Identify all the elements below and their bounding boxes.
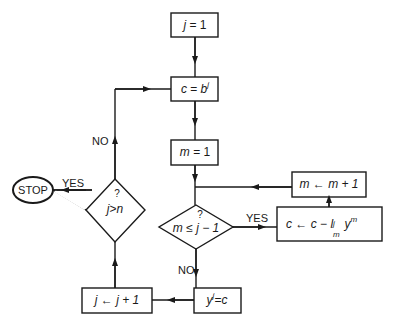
test-j-text: j>n bbox=[107, 203, 123, 215]
op-assign: ← bbox=[295, 217, 307, 231]
op-equals: = bbox=[189, 18, 196, 32]
op-leq: ≤ bbox=[186, 221, 193, 235]
sup-j: j bbox=[333, 220, 335, 228]
expr-j-plus-1: j + 1 bbox=[116, 293, 139, 307]
var-n: n bbox=[117, 202, 124, 216]
sup-j: j bbox=[213, 291, 215, 300]
test-m-no-label: NO bbox=[178, 265, 195, 276]
incr-m-text: m ← m + 1 bbox=[299, 178, 358, 190]
test-m-yes-label: YES bbox=[246, 213, 268, 224]
test-j-yes-label: YES bbox=[62, 178, 84, 189]
op-assign: ← bbox=[101, 293, 113, 307]
op-gt: > bbox=[109, 202, 116, 216]
incr-j-text: j ← j + 1 bbox=[95, 294, 139, 306]
op-equals: = bbox=[190, 82, 197, 96]
op-assign: ← bbox=[313, 177, 325, 191]
op-minus: − bbox=[320, 217, 327, 231]
test-m-question: ? bbox=[197, 210, 203, 220]
var-j: j bbox=[183, 18, 186, 32]
op-equals: = bbox=[214, 293, 221, 307]
flowchart-canvas bbox=[0, 0, 396, 330]
sub-m: m bbox=[333, 231, 340, 239]
init-m-text: m = 1 bbox=[180, 146, 210, 158]
init-j-text: j = 1 bbox=[183, 19, 206, 31]
set-c-text: c = bj bbox=[181, 83, 209, 95]
var-c: c bbox=[286, 217, 292, 231]
var-c: c bbox=[311, 217, 317, 231]
update-c-text: c ← c − ljm ym bbox=[286, 218, 357, 230]
sup-m: m bbox=[350, 215, 357, 224]
test-j-no-label: NO bbox=[92, 136, 109, 147]
value-one: 1 bbox=[204, 145, 211, 159]
test-j-question: ? bbox=[114, 189, 120, 199]
sup-j: j bbox=[207, 80, 209, 89]
expr-j-minus-1: j − 1 bbox=[196, 221, 219, 235]
stop-label: STOP bbox=[18, 185, 48, 196]
op-equals: = bbox=[193, 145, 200, 159]
value-one: 1 bbox=[200, 18, 207, 32]
var-m: m bbox=[173, 221, 183, 235]
var-j: j bbox=[95, 293, 98, 307]
var-c: c bbox=[221, 293, 227, 307]
var-c: c bbox=[181, 82, 187, 96]
var-m: m bbox=[180, 145, 190, 159]
expr-m-plus-1: m + 1 bbox=[328, 177, 358, 191]
store-y-text: yj=c bbox=[207, 294, 228, 306]
var-m: m bbox=[299, 177, 309, 191]
test-m-text: m ≤ j − 1 bbox=[173, 222, 219, 234]
